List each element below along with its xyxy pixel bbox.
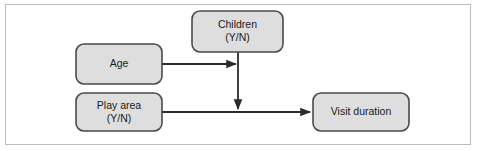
- node-play-area-label-line2: (Y/N): [107, 112, 132, 124]
- node-children-label-line1: Children: [218, 18, 257, 30]
- node-age-label-line1: Age: [110, 57, 129, 69]
- node-play-area[interactable]: Play area (Y/N): [76, 93, 162, 131]
- node-visit-duration-label-line1: Visit duration: [331, 105, 392, 117]
- path-diagram-figure: Children (Y/N) Age Play area (Y/N) Visit…: [0, 0, 477, 151]
- edges-layer: [162, 52, 310, 112]
- node-play-area-label-line1: Play area: [97, 99, 142, 111]
- node-age[interactable]: Age: [76, 44, 162, 84]
- node-visit-duration[interactable]: Visit duration: [313, 93, 409, 131]
- diagram-canvas: Children (Y/N) Age Play area (Y/N) Visit…: [0, 0, 477, 151]
- node-children-label-line2: (Y/N): [225, 31, 250, 43]
- node-children[interactable]: Children (Y/N): [192, 11, 283, 52]
